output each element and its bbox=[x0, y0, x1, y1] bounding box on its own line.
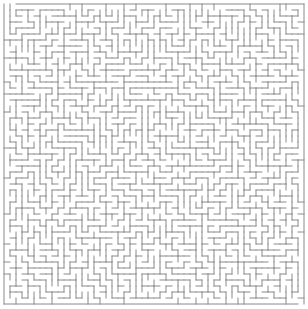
maze-board[interactable] bbox=[0, 0, 308, 309]
maze-walls bbox=[4, 4, 304, 304]
